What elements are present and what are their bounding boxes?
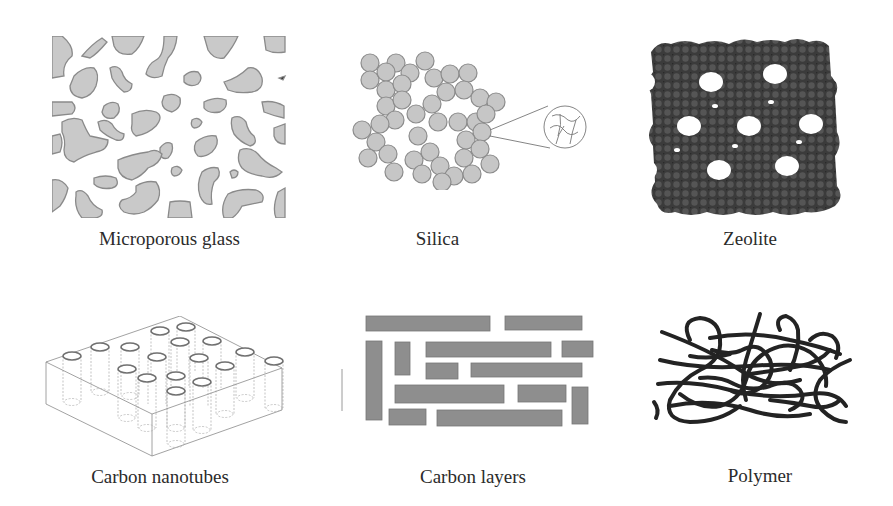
silica-illustration xyxy=(350,50,610,190)
caption-zeolite: Zeolite xyxy=(685,228,815,250)
caption-carbon-nanotubes: Carbon nanotubes xyxy=(40,466,280,488)
panel-silica: Silica xyxy=(350,50,610,280)
zeolite-illustration xyxy=(645,36,855,221)
panel-zeolite: Zeolite xyxy=(645,36,855,266)
caption-microporous-glass: Microporous glass xyxy=(52,228,287,250)
microporous-glass-illustration xyxy=(52,36,287,218)
panel-carbon-nanotubes: Carbon nanotubes xyxy=(40,316,300,496)
caption-silica: Silica xyxy=(370,228,505,250)
polymer-illustration xyxy=(650,310,870,445)
panel-polymer: Polymer xyxy=(650,310,870,496)
panel-microporous-glass: Microporous glass xyxy=(52,36,287,218)
caption-carbon-layers: Carbon layers xyxy=(338,466,608,488)
caption-polymer: Polymer xyxy=(695,465,825,487)
carbon-layers-illustration xyxy=(338,314,608,429)
panel-carbon-layers: Carbon layers xyxy=(338,314,608,494)
carbon-nanotubes-illustration xyxy=(40,316,300,461)
